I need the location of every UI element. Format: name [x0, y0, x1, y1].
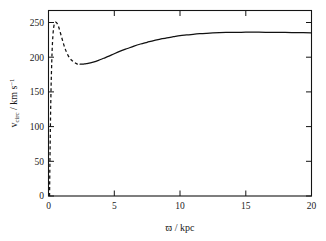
- inner-rotation-curve-path: [50, 22, 81, 196]
- y-tick-label: 250: [30, 18, 45, 28]
- y-tick-label: 100: [30, 122, 45, 132]
- y-tick-label: 150: [30, 87, 45, 97]
- x-tick-label: 10: [175, 201, 185, 211]
- x-tick-label: 0: [46, 201, 51, 211]
- y-axis-title: vcirc / km s−1: [8, 79, 21, 128]
- x-tick-label: 20: [307, 201, 317, 211]
- x-axis-title: ϖ / kpc: [166, 222, 195, 233]
- y-tick-labels: 0 50 100 150 200 250: [30, 18, 45, 202]
- y-axis-superscript: −1: [8, 79, 15, 86]
- y-tick-label: 200: [30, 53, 45, 63]
- chart-canvas: 0 50 100 150 200 250 0 5 10 15 20 vcirc …: [0, 0, 326, 241]
- y-tick-marks: [49, 23, 312, 197]
- x-tick-label: 5: [112, 201, 117, 211]
- x-tick-labels: 0 5 10 15 20: [46, 201, 316, 211]
- outer-rotation-curve-path: [80, 32, 311, 64]
- rotation-curve-figure: 0 50 100 150 200 250 0 5 10 15 20 vcirc …: [0, 0, 326, 241]
- y-tick-label: 0: [39, 191, 44, 201]
- y-axis-subscript: circ: [13, 112, 20, 122]
- svg-text:ϖ / kpc: ϖ / kpc: [166, 222, 195, 233]
- y-axis-separator: / km s: [8, 85, 19, 112]
- svg-text:vcirc / km s−1: vcirc / km s−1: [8, 79, 21, 128]
- x-axis-separator: / kpc: [172, 222, 195, 233]
- x-tick-marks: [49, 11, 312, 197]
- y-tick-label: 50: [35, 157, 45, 167]
- x-tick-label: 15: [241, 201, 251, 211]
- data-curves: [50, 22, 312, 196]
- axes-frame: [49, 11, 312, 197]
